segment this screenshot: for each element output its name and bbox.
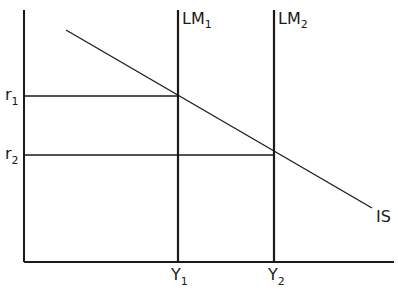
islm-diagram: LM1 LM2 IS r1 r2 Y1 Y2 (0, 0, 398, 291)
r2-label: r2 (5, 144, 19, 167)
r1-label: r1 (5, 85, 19, 108)
y1-label: Y1 (170, 265, 188, 288)
is-curve (66, 30, 372, 208)
y2-label: Y2 (267, 265, 285, 288)
lm2-label: LM2 (278, 9, 308, 31)
is-label: IS (376, 207, 391, 226)
lm1-label: LM1 (182, 9, 212, 31)
